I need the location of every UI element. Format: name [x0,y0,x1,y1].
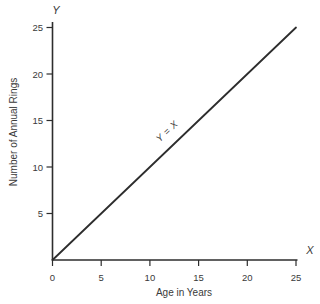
x-tick-label: 10 [145,272,156,283]
x-tick-label: 20 [242,272,253,283]
x-tick-label: 0 [50,272,55,283]
y-tick-label: 10 [32,162,43,173]
x-tick-label: 5 [99,272,104,283]
chart-figure: 0510152025510152025Y = X Y X Number of A… [0,0,320,304]
y-tick-label: 25 [32,22,43,33]
axes-layer: 0510152025510152025Y = X [32,22,301,283]
series-line [53,28,297,261]
x-tick-label: 15 [193,272,204,283]
plot-svg: 0510152025510152025Y = X Y X Number of A… [0,0,320,304]
x-tick-label: 25 [291,272,302,283]
y-axis-letter: Y [52,4,60,16]
y-axis-title: Number of Annual Rings [8,78,19,186]
y-tick-label: 5 [38,208,43,219]
y-tick-label: 15 [32,115,43,126]
x-axis-letter: X [305,244,314,256]
y-tick-label: 20 [32,69,43,80]
line-annotation: Y = X [154,118,181,144]
x-axis-title: Age in Years [156,287,212,298]
